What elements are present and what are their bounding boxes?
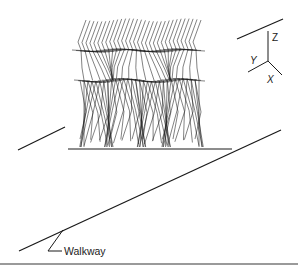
bottom-rule xyxy=(0,263,298,265)
stick-figure-path xyxy=(72,19,205,147)
axis-z-label: Z xyxy=(272,32,278,43)
walkway-leader-line xyxy=(48,230,63,251)
walkway-near-edge xyxy=(19,130,281,251)
axis-y-label: Y xyxy=(250,55,258,66)
stick-figure-frames xyxy=(72,19,205,147)
gait-diagram: Z Y X Walkway xyxy=(0,0,298,276)
walkway-label: Walkway xyxy=(64,245,106,257)
walkway-left-edge xyxy=(18,127,65,150)
axis-x-label: X xyxy=(266,74,274,85)
